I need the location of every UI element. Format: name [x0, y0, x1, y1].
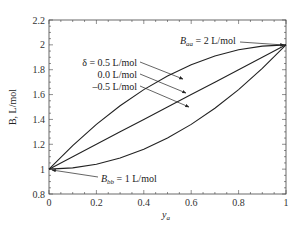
- annotation-baa: Baa = 2 L/mol: [180, 35, 236, 48]
- y-tick-label: 1.4: [33, 114, 46, 125]
- y-tick-label: 1: [40, 164, 45, 175]
- y-tick-label: 2: [40, 39, 45, 50]
- x-tick-label: 0.6: [185, 197, 198, 208]
- x-tick-label: 0.4: [138, 197, 151, 208]
- annotation-bbb: Bbb = 1 L/mol: [101, 173, 157, 186]
- x-tick-label: 0.8: [232, 197, 245, 208]
- arrow-delta-zero: [140, 74, 186, 93]
- arrow-bbb: [52, 170, 98, 177]
- y-tick-label: 2.2: [33, 15, 46, 26]
- x-tick-label: 0: [47, 197, 52, 208]
- arrow-delta-neg: [140, 86, 189, 107]
- y-tick-label: 1.8: [33, 64, 46, 75]
- y-tick-label: 1.6: [33, 89, 46, 100]
- arrow-baa: [240, 42, 284, 45]
- chart: 00.20.40.60.810.811.21.41.61.822.2 B, L/…: [0, 0, 300, 230]
- y-tick-label: 0.8: [33, 189, 46, 200]
- x-axis-label: ya: [161, 209, 170, 222]
- x-tick-label: 1: [284, 197, 289, 208]
- x-tick-label: 0.2: [90, 197, 103, 208]
- label-delta-neg: –0.5 L/mol: [92, 81, 138, 92]
- y-tick-label: 1.2: [33, 139, 46, 150]
- label-delta-zero: 0.0 L/mol: [98, 69, 138, 80]
- label-delta-pos: δ = 0.5 L/mol: [82, 57, 137, 68]
- y-axis-label: B, L/mol: [7, 89, 18, 125]
